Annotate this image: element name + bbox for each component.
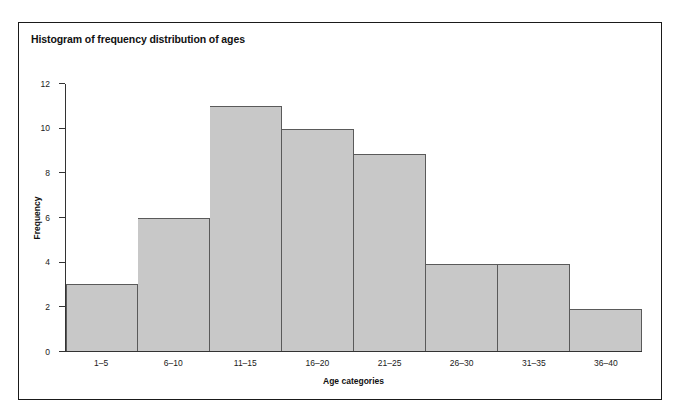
histogram-bar[interactable] [498,264,570,351]
histogram-bar[interactable] [354,154,426,351]
histogram-bar[interactable] [426,264,498,351]
bar-slot [570,84,642,351]
x-axis-tick-label: 31–35 [498,358,570,368]
y-axis-tick: 2 [59,306,65,307]
y-axis-tick: 6 [59,217,65,218]
y-axis-title-label: Frequency [31,197,41,240]
bar-slot [138,84,210,351]
histogram-bar[interactable] [570,309,642,351]
bar-slot [282,84,354,351]
x-axis-line [65,351,642,352]
y-axis-tick-label: 8 [45,168,50,178]
x-axis-tick-label: 26–30 [426,358,498,368]
x-axis-tick-label: 1–5 [65,358,137,368]
plot-area: 024681012 [65,84,642,352]
bar-slot [426,84,498,351]
x-axis-tick-label: 6–10 [137,358,209,368]
x-axis-tick-label: 11–15 [209,358,281,368]
x-axis-title: Age categories [65,376,642,386]
y-axis-tick: 0 [59,351,65,352]
bar-slot [66,84,138,351]
y-axis-tick: 10 [59,128,65,129]
bar-series [66,84,642,351]
x-axis-tick-labels: 1–56–1011–1516–2021–2526–3031–3536–40 [65,358,642,368]
x-axis-tick-label: 21–25 [354,358,426,368]
y-axis-tick-label: 2 [45,302,50,312]
y-axis-tick: 4 [59,262,65,263]
bar-slot [354,84,426,351]
bar-slot [498,84,570,351]
histogram-bar[interactable] [138,218,210,352]
y-axis-tick-label: 10 [41,123,50,133]
y-axis-tick-label: 6 [45,213,50,223]
bar-slot [210,84,282,351]
x-axis-tick-label: 16–20 [281,358,353,368]
chart-title: Histogram of frequency distribution of a… [31,33,245,45]
histogram-bar[interactable] [66,284,138,351]
y-axis-tick-label: 12 [41,79,50,89]
histogram-bar[interactable] [282,129,354,352]
figure-frame: Histogram of frequency distribution of a… [18,22,662,400]
y-axis-tick: 12 [59,83,65,84]
y-axis-tick-label: 4 [45,257,50,267]
y-axis-tick: 8 [59,172,65,173]
y-axis-tick-label: 0 [45,347,50,357]
x-axis-tick-label: 36–40 [570,358,642,368]
histogram-bar[interactable] [210,106,282,351]
